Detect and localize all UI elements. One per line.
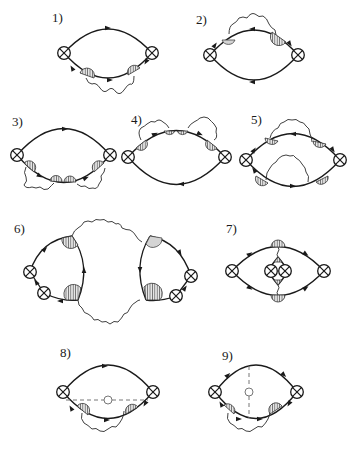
otimes-vertex-icon	[292, 49, 305, 62]
wavy-line	[139, 120, 169, 140]
panel-label-6: 6)	[14, 221, 25, 236]
otimes-vertex-icon	[170, 290, 183, 303]
hatched-blob	[316, 176, 328, 184]
panel-7: 7)	[226, 221, 331, 302]
otimes-vertex-icon	[122, 151, 135, 164]
otimes-vertex-icon	[204, 49, 217, 62]
hatched-blob	[24, 161, 36, 172]
panel-label-3: 3)	[12, 114, 23, 129]
hatched-blob	[136, 140, 147, 150]
hatched-blob	[271, 295, 285, 302]
panel-4: 4)	[122, 112, 232, 186]
otimes-vertex-icon	[226, 265, 239, 278]
otimes-vertex-icon	[57, 386, 70, 399]
hatched-blob	[224, 404, 235, 414]
panel-label-2: 2)	[196, 12, 207, 27]
hatched-blob	[144, 283, 162, 300]
otimes-vertex-icon	[265, 265, 278, 278]
panel-6: 6)	[14, 219, 197, 324]
otimes-vertex-icon	[279, 265, 292, 278]
wavy-line	[277, 285, 279, 295]
hatched-blob	[127, 65, 140, 75]
panel-1: 1)	[52, 10, 158, 94]
wavy-line	[270, 119, 312, 142]
hatched-blob	[206, 140, 217, 150]
gray-blob	[222, 40, 235, 44]
hatched-blob	[92, 161, 104, 172]
otimes-vertex-icon	[104, 149, 117, 162]
hatched-blob	[64, 176, 76, 182]
panel-2: 2)	[196, 12, 304, 84]
otimes-vertex-icon	[291, 386, 304, 399]
otimes-vertex-icon	[58, 47, 71, 60]
hatched-blob	[77, 403, 90, 415]
hatched-blob	[177, 131, 188, 135]
otimes-vertex-icon	[147, 386, 160, 399]
otimes-vertex-icon	[209, 386, 222, 399]
feynman-diagram-figure: 1) 2) 3)	[0, 0, 359, 451]
open-circle-icon	[104, 396, 112, 404]
wavy-line	[72, 219, 142, 242]
panel-label-7: 7)	[226, 221, 237, 236]
hatched-blob	[64, 284, 81, 300]
otimes-vertex-icon	[146, 47, 159, 60]
open-circle-icon	[245, 388, 253, 396]
hatched-blob	[274, 257, 282, 262]
panel-label-9: 9)	[222, 348, 233, 363]
wavy-line	[78, 300, 140, 324]
hatched-blob	[62, 236, 78, 249]
otimes-vertex-icon	[11, 149, 24, 162]
panel-label-1: 1)	[52, 10, 63, 25]
panel-label-4: 4)	[131, 112, 142, 127]
otimes-vertex-icon	[240, 154, 253, 167]
otimes-vertex-icon	[24, 266, 37, 279]
hatched-blob	[125, 404, 138, 414]
hatched-blob	[274, 280, 282, 285]
panel-3: 3)	[11, 114, 117, 190]
otimes-vertex-icon	[185, 270, 198, 283]
otimes-vertex-icon	[318, 265, 331, 278]
wavy-line	[277, 247, 279, 257]
wavy-line	[24, 167, 54, 190]
panel-9: 9)	[209, 348, 304, 432]
panel-label-8: 8)	[60, 345, 71, 360]
wavy-line	[188, 117, 217, 140]
otimes-vertex-icon	[38, 287, 51, 300]
panel-8: 8)	[57, 345, 160, 432]
hatched-blob	[270, 32, 286, 46]
otimes-vertex-icon	[219, 151, 232, 164]
wavy-line	[86, 76, 134, 94]
hatched-blob	[164, 131, 175, 135]
panel-5: 5)	[240, 112, 347, 188]
wavy-line	[266, 155, 309, 182]
otimes-vertex-icon	[334, 154, 347, 167]
hatched-blob	[271, 240, 285, 247]
panel-label-5: 5)	[251, 112, 262, 127]
hatched-blob	[80, 68, 94, 78]
hatched-blob	[50, 175, 62, 182]
